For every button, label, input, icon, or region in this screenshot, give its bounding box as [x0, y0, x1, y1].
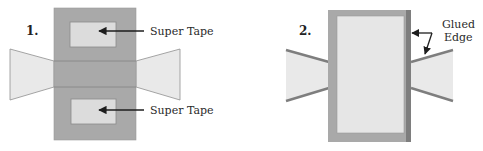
step-number: 1. [26, 24, 39, 38]
super-tape-label: Super Tape [150, 104, 214, 117]
glued-edge-label-line1: Glued [442, 18, 475, 31]
left-wing-flap [10, 49, 54, 100]
panel-1: 1. Super Tape Super Tape [10, 8, 214, 140]
panel-2: 2. Glued Edge [286, 10, 475, 142]
arrow-icon [425, 33, 432, 54]
glued-edge-strip [406, 10, 411, 142]
super-tape-bottom [71, 99, 116, 124]
diagram-canvas: 1. Super Tape Super Tape 2. Glued Edge [0, 0, 483, 151]
super-tape-top [70, 22, 116, 47]
glued-edge-label-line2: Edge [444, 31, 473, 44]
super-tape-label: Super Tape [150, 25, 214, 38]
step-number: 2. [299, 24, 312, 38]
right-wing-flap [136, 49, 180, 100]
inner-panel [337, 16, 404, 133]
